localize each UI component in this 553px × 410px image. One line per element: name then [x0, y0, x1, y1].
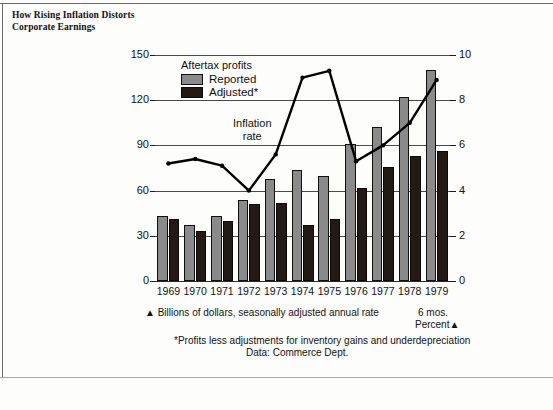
y-tick-right-4: 4: [459, 184, 465, 196]
inflation-point-1979: [434, 78, 438, 82]
y-tickmark-right-0: [450, 281, 456, 282]
footnote-asterisk: *Profits less adjustments for inventory …: [174, 335, 470, 346]
annotation-line-1: Inflation: [233, 117, 272, 130]
x-tick-1979: 1979: [417, 285, 457, 297]
annotation-line-2: rate: [233, 130, 272, 143]
legend-label-adjusted: Adjusted*: [209, 86, 258, 98]
y-tick-right-2: 2: [459, 229, 465, 241]
y-tick-left-0: 0: [125, 274, 149, 286]
y-tick-left-150: 150: [125, 48, 149, 60]
frame-border-left: [2, 3, 3, 378]
legend-label-reported: Reported: [209, 73, 256, 85]
inflation-point-1978: [408, 121, 412, 125]
legend-swatch-adjusted: [181, 87, 203, 98]
plot-area: Aftertax profits Reported Adjusted* Infl…: [155, 55, 450, 281]
clipping-page: How Rising Inflation Distorts Corporate …: [0, 0, 553, 410]
legend-heading: Aftertax profits: [181, 59, 258, 71]
y-tick-right-8: 8: [459, 93, 465, 105]
y-tick-left-90: 90: [125, 138, 149, 150]
y-tick-right-6: 6: [459, 138, 465, 150]
inflation-point-1975: [327, 69, 331, 73]
footnote-last-period: 6 mos.: [418, 307, 448, 318]
page-title: How Rising Inflation Distorts Corporate …: [12, 10, 142, 33]
inflation-point-1972: [247, 188, 251, 192]
legend-item-adjusted: Adjusted*: [181, 86, 258, 98]
frame-border-top: [0, 3, 553, 4]
inflation-point-1977: [381, 143, 385, 147]
inflation-point-1970: [193, 157, 197, 161]
inflation-point-1969: [166, 161, 170, 165]
y-tick-left-120: 120: [125, 93, 149, 105]
legend-item-reported: Reported: [181, 73, 258, 85]
y-tick-right-0: 0: [459, 274, 465, 286]
y-tick-left-60: 60: [125, 184, 149, 196]
y-tick-left-30: 30: [125, 229, 149, 241]
y-tickmark-right-8: [450, 100, 456, 101]
inflation-point-1976: [354, 159, 358, 163]
footnote-right-axis: Percent▲: [415, 319, 459, 330]
y-tickmark-right-2: [450, 236, 456, 237]
footnote-source: Data: Commerce Dept.: [246, 347, 348, 358]
inflation-point-1973: [274, 152, 278, 156]
chart-legend: Aftertax profits Reported Adjusted*: [181, 59, 258, 98]
footnote-left-axis: ▲ Billions of dollars, seasonally adjust…: [145, 307, 379, 318]
y-tickmark-right-10: [450, 55, 456, 56]
y-tickmark-right-4: [450, 191, 456, 192]
y-tickmark-right-6: [450, 145, 456, 146]
frame-border-bottom: [0, 377, 553, 378]
y-tick-right-10: 10: [459, 48, 471, 60]
gridline-0: [155, 281, 450, 282]
inflation-point-1974: [300, 75, 304, 79]
inflation-point-1971: [220, 164, 224, 168]
annotation-inflation-rate: Inflation rate: [233, 117, 272, 142]
legend-swatch-reported: [181, 74, 203, 85]
